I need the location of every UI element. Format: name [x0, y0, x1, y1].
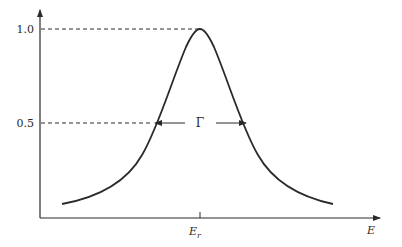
resonance-energy-subscript: r: [197, 231, 202, 240]
resonance-energy-main: E: [188, 225, 197, 238]
width-label: Γ: [196, 116, 204, 130]
resonance-diagram: 1.0 0.5 Γ Er E: [0, 0, 402, 247]
resonance-energy-label: Er: [188, 225, 202, 240]
y-tick-label-0-5: 0.5: [17, 117, 35, 130]
y-tick-label-1: 1.0: [17, 23, 35, 36]
x-axis-label: E: [366, 224, 375, 237]
